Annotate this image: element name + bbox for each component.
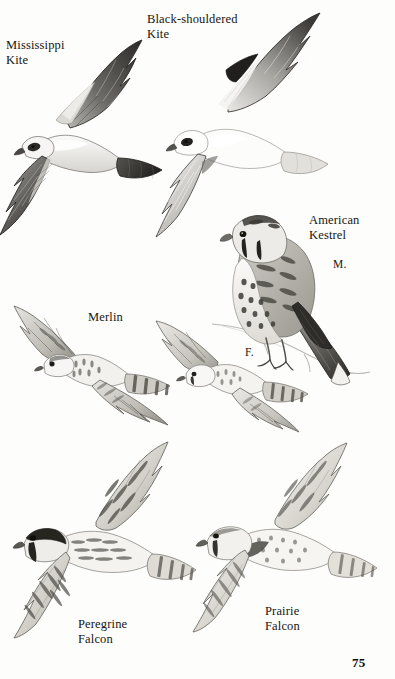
- page-number: 75: [352, 655, 366, 671]
- illustration-peregrine-falcon: [0, 438, 200, 638]
- label-merlin: Merlin: [88, 310, 123, 325]
- field-guide-page: Mississippi Kite: [0, 0, 395, 679]
- label-black-shouldered-kite: Black-shouldered Kite: [147, 12, 238, 41]
- label-american-kestrel: American Kestrel: [309, 213, 359, 242]
- sex-marker-male: M.: [333, 258, 347, 270]
- label-peregrine-falcon: Peregrine Falcon: [78, 617, 127, 646]
- illustration-prairie-falcon: [185, 440, 385, 630]
- label-mississippi-kite: Mississippi Kite: [6, 38, 65, 67]
- label-prairie-falcon: Prairie Falcon: [265, 604, 300, 633]
- illustration-kestrel-female-flight: [140, 318, 310, 443]
- sex-marker-female: F.: [245, 346, 254, 358]
